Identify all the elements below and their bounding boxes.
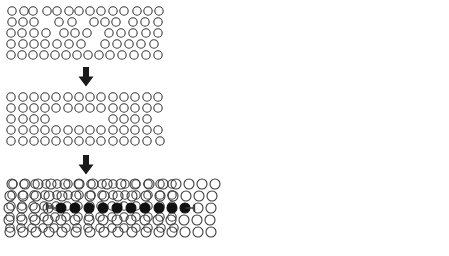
circle-marker xyxy=(155,7,163,15)
circle-marker xyxy=(64,93,72,101)
circle-marker xyxy=(19,18,27,26)
circle-marker xyxy=(193,203,203,213)
circle-marker xyxy=(184,179,194,189)
circle-marker xyxy=(8,7,16,15)
filled-circle-marker xyxy=(56,203,66,213)
circle-marker xyxy=(85,227,95,237)
circle-marker xyxy=(98,191,106,199)
circle-marker xyxy=(7,40,15,48)
circle-marker xyxy=(129,29,137,37)
circle-marker xyxy=(68,18,76,26)
circle-marker xyxy=(88,179,98,189)
circle-marker xyxy=(106,51,114,59)
circle-marker xyxy=(109,180,117,188)
circle-marker xyxy=(4,203,14,213)
circle-marker xyxy=(52,104,60,112)
circle-marker xyxy=(206,227,216,237)
circle-marker xyxy=(74,179,84,189)
panel-raw-detection xyxy=(0,0,449,256)
circle-marker xyxy=(40,202,48,210)
circle-row xyxy=(7,29,162,37)
circle-marker xyxy=(168,191,176,199)
panel-measured-grid-canvas xyxy=(0,0,441,256)
circle-marker xyxy=(41,126,49,134)
circle-marker xyxy=(86,104,94,112)
circle-marker xyxy=(20,7,28,15)
circle-marker xyxy=(156,213,164,221)
circle-marker xyxy=(86,126,94,134)
circle-marker xyxy=(132,213,140,221)
circle-marker xyxy=(19,40,27,48)
circle-marker xyxy=(53,7,61,15)
circle-marker xyxy=(40,51,48,59)
circle-marker xyxy=(154,93,162,101)
panel-measured-grid-circles xyxy=(6,180,178,232)
circle-marker xyxy=(90,18,98,26)
circle-marker xyxy=(141,18,149,26)
circle-marker xyxy=(144,179,154,189)
circle-marker xyxy=(17,203,27,213)
circle-marker xyxy=(41,137,49,145)
circle-marker xyxy=(179,215,189,225)
circle-marker xyxy=(64,191,72,199)
circle-marker xyxy=(143,126,151,134)
circle-marker xyxy=(109,126,117,134)
circle-marker xyxy=(30,18,38,26)
circle-marker xyxy=(73,51,81,59)
circle-marker xyxy=(56,215,66,225)
circle-row xyxy=(8,18,162,26)
circle-marker xyxy=(155,191,165,201)
circle-marker xyxy=(192,215,202,225)
circle-marker xyxy=(131,115,139,123)
circle-marker xyxy=(113,191,123,201)
circle-marker xyxy=(71,227,81,237)
circle-marker xyxy=(84,51,92,59)
circle-marker xyxy=(8,191,16,199)
circle-marker xyxy=(120,115,128,123)
circle-marker xyxy=(41,40,49,48)
circle-marker xyxy=(30,104,38,112)
circle-marker xyxy=(71,29,79,37)
circle-marker xyxy=(171,179,181,189)
circle-marker xyxy=(97,7,105,15)
circle-marker xyxy=(44,191,54,201)
circle-marker xyxy=(97,137,105,145)
circle-marker xyxy=(4,215,14,225)
circle-marker xyxy=(30,40,38,48)
circle-marker xyxy=(6,224,14,232)
circle-marker xyxy=(150,40,158,48)
circle-marker xyxy=(144,213,152,221)
circle-row xyxy=(7,51,162,59)
circle-marker xyxy=(6,213,14,221)
circle-marker xyxy=(120,93,128,101)
circle-marker xyxy=(156,202,164,210)
circle-marker xyxy=(142,29,150,37)
circle-marker xyxy=(29,7,37,15)
circle-marker xyxy=(210,179,220,189)
circle-marker xyxy=(108,202,116,210)
circle-row xyxy=(5,227,216,237)
circle-row xyxy=(7,126,162,134)
circle-marker xyxy=(63,202,71,210)
circle-marker xyxy=(75,93,83,101)
circle-marker xyxy=(131,126,139,134)
circle-marker xyxy=(108,224,116,232)
circle-marker xyxy=(101,40,109,48)
circle-marker xyxy=(62,224,70,232)
circle-marker xyxy=(5,191,15,201)
circle-marker xyxy=(7,202,15,210)
circle-marker xyxy=(121,180,129,188)
circle-marker xyxy=(144,224,152,232)
circle-marker xyxy=(64,180,72,188)
circle-marker xyxy=(46,179,56,189)
circle-marker xyxy=(168,202,176,210)
circle-marker xyxy=(7,93,15,101)
circle-marker xyxy=(102,179,112,189)
circle-marker xyxy=(105,29,113,37)
circle-marker xyxy=(83,29,91,37)
circle-marker xyxy=(181,191,191,201)
circle-marker xyxy=(143,115,151,123)
circle-marker xyxy=(96,213,104,221)
circle-marker xyxy=(52,202,60,210)
circle-marker xyxy=(132,202,140,210)
